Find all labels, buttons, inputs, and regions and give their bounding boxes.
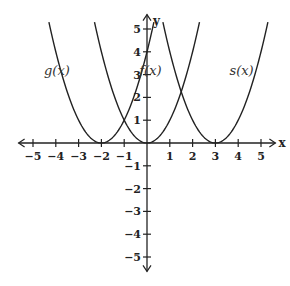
x-axis-title: x [278, 136, 286, 150]
x-tick-label: −3 [70, 150, 87, 163]
y-tick-label: −1 [124, 160, 141, 173]
y-tick-label: 4 [133, 46, 141, 59]
y-tick-label: −3 [124, 205, 141, 218]
chart: −5−4−3−2−112345−5−4−3−2−112345 xyg(x)f(x… [0, 0, 290, 286]
x-tick-label: −5 [25, 150, 42, 163]
y-axis-title: y [152, 14, 161, 28]
curve-sx [163, 22, 268, 143]
curve-label-fx: f(x) [138, 63, 161, 78]
curve-label-sx: s(x) [230, 63, 254, 78]
x-tick-label: −4 [47, 150, 64, 163]
y-tick-label: −2 [124, 183, 141, 196]
x-tick-label: 4 [234, 150, 242, 163]
x-tick-label: 2 [189, 150, 197, 163]
y-tick-label: −4 [124, 228, 141, 241]
x-tick-label: 5 [257, 150, 265, 163]
x-tick-label: 3 [212, 150, 220, 163]
y-tick-label: 1 [133, 114, 141, 127]
x-tick-label: −2 [93, 150, 110, 163]
curves [49, 22, 268, 143]
curve-label-gx: g(x) [44, 63, 70, 78]
y-tick-label: 5 [133, 23, 141, 36]
x-tick-label: 1 [166, 150, 174, 163]
y-tick-label: −5 [124, 251, 141, 264]
